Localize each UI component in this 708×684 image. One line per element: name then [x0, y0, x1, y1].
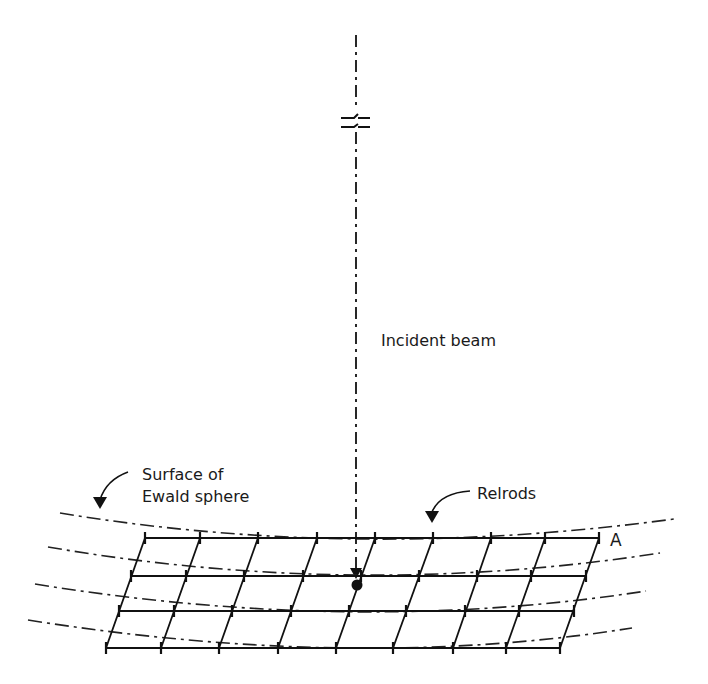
relrods-pointer-arrow	[425, 491, 470, 523]
ewald-pointer-arrow	[93, 472, 128, 509]
ewald-sphere-label: Surface of Ewald sphere	[142, 464, 249, 508]
arrowhead-icon	[93, 497, 107, 509]
beam-break-icon	[341, 114, 370, 118]
ewald-sphere-surfaces	[28, 513, 674, 648]
reciprocal-lattice-grid	[106, 532, 599, 654]
corner-a-label: A	[610, 529, 622, 551]
relrods-label: Relrods	[477, 483, 536, 505]
incident-beam-label: Incident beam	[381, 330, 496, 352]
ewald-label-line2: Ewald sphere	[142, 486, 249, 508]
ewald-label-line1: Surface of	[142, 464, 249, 486]
relrod-ewald-diagram	[0, 0, 708, 684]
arrowhead-icon	[425, 511, 439, 523]
incident-beam-line	[341, 35, 370, 579]
